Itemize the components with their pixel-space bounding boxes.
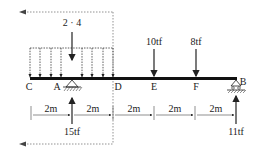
reaction-a: 15tf bbox=[64, 98, 81, 137]
point-label-f: F bbox=[193, 81, 199, 92]
section-cut-top bbox=[19, 10, 113, 145]
svg-text:10tf: 10tf bbox=[146, 36, 163, 47]
point-label-e: E bbox=[151, 81, 157, 92]
span-label: 2m bbox=[87, 103, 100, 114]
distributed-load-label: 2 · 4 bbox=[63, 17, 81, 28]
svg-text:8tf: 8tf bbox=[190, 36, 202, 47]
span-label: 2m bbox=[210, 103, 223, 114]
point-label-c: C bbox=[26, 81, 33, 92]
beam bbox=[30, 77, 237, 80]
section-cut-bottom bbox=[19, 142, 113, 147]
span-label: 2m bbox=[169, 103, 182, 114]
svg-text:15tf: 15tf bbox=[64, 126, 81, 137]
pin-support-icon bbox=[63, 80, 82, 91]
point-load-e: 10tf bbox=[146, 36, 163, 76]
arrow-left-icon bbox=[19, 10, 26, 15]
svg-text:11tf: 11tf bbox=[228, 126, 244, 137]
reaction-b: 11tf bbox=[228, 96, 244, 137]
beam-diagram: 2 · 4 C A D E F B 10tf 8tf bbox=[0, 0, 259, 160]
point-label-d: D bbox=[114, 81, 121, 92]
distributed-load: 2 · 4 bbox=[29, 17, 115, 78]
point-load-f: 8tf bbox=[190, 36, 202, 76]
arrow-left-icon bbox=[19, 142, 26, 147]
span-label: 2m bbox=[45, 103, 58, 114]
span-label: 2m bbox=[128, 103, 141, 114]
point-label-a: A bbox=[53, 81, 61, 92]
